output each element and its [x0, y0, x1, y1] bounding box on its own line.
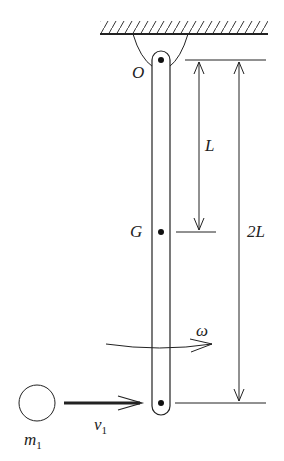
- m-subscript: 1: [36, 439, 42, 451]
- impact-point: [158, 400, 164, 406]
- v-subscript: 1: [102, 424, 108, 436]
- label-l: L: [205, 137, 214, 154]
- label-v1: v1: [94, 416, 107, 436]
- label-2l: 2L: [247, 223, 265, 240]
- ceiling: [100, 21, 268, 34]
- dimension-l: [176, 60, 266, 232]
- label-m1: m1: [24, 431, 42, 451]
- label-o: O: [132, 64, 144, 81]
- v-symbol: v: [94, 415, 102, 434]
- pivot-point-o: [158, 57, 164, 63]
- mass-ball: [19, 385, 55, 421]
- label-omega: ω: [196, 322, 208, 339]
- center-of-mass-g: [158, 229, 164, 235]
- velocity-arrow: [64, 396, 142, 410]
- m-symbol: m: [24, 430, 36, 449]
- label-g: G: [130, 223, 142, 240]
